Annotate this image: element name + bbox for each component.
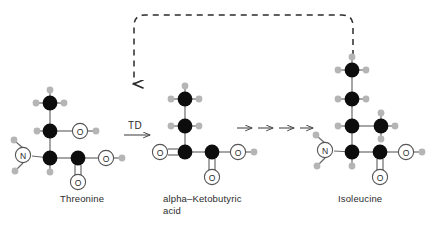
ketobutyric-carbonyl-double-bond <box>209 159 215 170</box>
atom-label-oxygen: O <box>157 148 164 158</box>
molecule-threonine: N O O O <box>11 87 126 190</box>
molecule-label-alpha-ketobutyric-acid: alpha–Ketobutyric acid <box>163 193 242 217</box>
molecule-label-threonine: Threonine <box>60 193 104 205</box>
atom-label-oxygen: O <box>403 148 410 158</box>
diagram-canvas: N O O O <box>0 0 436 226</box>
threonine-carbonyl-double-bond <box>75 165 81 175</box>
threonine-heteroatoms: N O O O <box>15 123 113 189</box>
isoleucine-carbonyl-double-bond <box>377 159 383 170</box>
molecule-label-isoleucine: Isoleucine <box>338 193 382 205</box>
molecule-isoleucine: N O O <box>313 54 426 185</box>
atom-label-oxygen: O <box>75 178 82 188</box>
ketobutyric-keto-double-bond <box>168 149 178 155</box>
atom-label-oxygen: O <box>377 173 384 183</box>
atom-label-oxygen: O <box>235 148 242 158</box>
feedback-inhibition-arrow <box>134 15 353 84</box>
enzyme-label-td: TD <box>128 120 142 131</box>
atom-label-nitrogen: N <box>322 146 328 156</box>
molecule-alpha-ketobutyric-acid: O O O <box>152 83 257 185</box>
atom-label-nitrogen: N <box>20 151 26 161</box>
isoleucine-heteroatoms: N O O <box>317 142 413 184</box>
atom-label-oxygen: O <box>103 154 110 164</box>
atom-label-oxygen: O <box>77 127 84 137</box>
ketobutyric-heteroatoms: O O O <box>152 144 245 184</box>
atom-label-oxygen: O <box>209 173 216 183</box>
